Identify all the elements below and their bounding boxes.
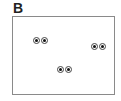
dot-pair-3 (57, 66, 73, 73)
diagram-panel (12, 16, 115, 95)
dot-icon (57, 66, 64, 73)
dot-icon (65, 66, 72, 73)
dot-icon (99, 43, 106, 50)
dot-pair-1 (33, 37, 49, 44)
dot-icon (91, 43, 98, 50)
dot-icon (33, 37, 40, 44)
panel-label: B (13, 1, 23, 15)
dot-pair-2 (91, 43, 107, 50)
dot-icon (41, 37, 48, 44)
